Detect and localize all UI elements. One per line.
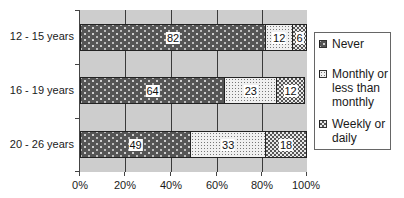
weekly-swatch-icon	[319, 120, 327, 128]
x-label-80: 80%	[251, 179, 273, 191]
bar-segment-monthly: 12	[266, 24, 293, 51]
plot-area: 82126 642312 493318	[79, 10, 307, 172]
x-tick	[216, 172, 217, 176]
bar-segment-weekly: 18	[266, 131, 307, 158]
bar-segment-monthly: 23	[225, 77, 277, 104]
bar-20-26: 493318	[80, 131, 307, 158]
bar-segment-never: 82	[80, 24, 266, 51]
bar-segment-monthly: 33	[191, 131, 266, 158]
legend-item-never: Never	[319, 37, 390, 51]
monthly-swatch-icon	[319, 70, 327, 78]
data-label: 12	[283, 85, 297, 97]
legend-item-weekly: Weekly or daily	[319, 117, 390, 145]
y-label-16-19: 16 - 19 years	[10, 84, 74, 96]
x-label-40: 40%	[160, 179, 182, 191]
legend-label: Weekly or daily	[332, 117, 390, 145]
x-tick	[170, 172, 171, 176]
legend-item-monthly: Monthly or less than monthly	[319, 67, 390, 109]
x-label-20: 20%	[114, 179, 136, 191]
y-tick	[75, 118, 79, 119]
data-label: 12	[272, 32, 286, 44]
data-label: 82	[166, 32, 180, 44]
bar-12-15: 82126	[80, 24, 307, 51]
y-tick	[75, 64, 79, 65]
data-label: 64	[146, 85, 160, 97]
legend-label: Monthly or less than monthly	[332, 67, 390, 109]
x-tick	[79, 172, 80, 176]
x-label-0: 0%	[72, 179, 88, 191]
never-swatch-icon	[319, 40, 327, 48]
x-tick	[124, 172, 125, 176]
data-label: 33	[221, 139, 235, 151]
x-label-100: 100%	[292, 179, 320, 191]
bar-segment-never: 64	[80, 77, 225, 104]
bar-segment-weekly: 12	[277, 77, 304, 104]
x-label-60: 60%	[206, 179, 228, 191]
bar-segment-never: 49	[80, 131, 191, 158]
y-tick	[75, 10, 79, 11]
legend: Never Monthly or less than monthly Weekl…	[314, 32, 391, 150]
data-label: 6	[296, 32, 304, 44]
data-label: 18	[279, 139, 293, 151]
data-label: 23	[244, 85, 258, 97]
x-tick	[261, 172, 262, 176]
y-label-12-15: 12 - 15 years	[10, 30, 74, 42]
bar-segment-weekly: 6	[293, 24, 307, 51]
x-tick	[306, 172, 307, 176]
data-label: 49	[128, 139, 142, 151]
y-label-20-26: 20 - 26 years	[10, 138, 74, 150]
legend-label: Never	[332, 37, 390, 51]
bar-16-19: 642312	[80, 77, 305, 104]
